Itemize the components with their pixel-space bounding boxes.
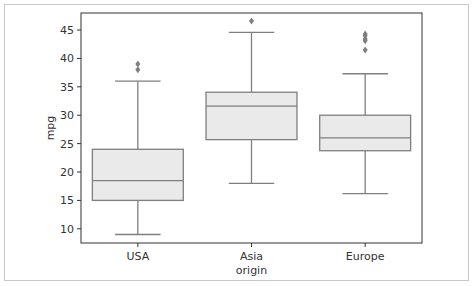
y-tick-label: 25 [60,138,74,151]
iqr-box [206,92,297,139]
box-usa [92,61,183,235]
y-tick-label: 20 [60,166,74,179]
outlier-point [249,17,254,24]
x-tick-label: Europe [346,250,385,263]
box-europe [320,31,411,194]
iqr-box [92,149,183,200]
x-axis-label: origin [236,264,267,277]
y-tick-label: 15 [60,194,74,207]
box-plot-chart: 1015202530354045 USAAsiaEurope origin mp… [0,0,473,286]
y-tick-label: 30 [60,109,74,122]
y-tick-label: 45 [60,24,74,37]
iqr-box [320,115,411,150]
y-tick-label: 35 [60,81,74,94]
boxes-layer [92,17,410,234]
outlier-point [363,46,368,53]
box-asia [206,17,297,183]
y-axis: 1015202530354045 [60,24,81,236]
outlier-point [135,61,140,68]
x-tick-label: USA [126,250,149,263]
y-axis-label: mpg [44,116,57,141]
y-tick-label: 40 [60,52,74,65]
x-tick-label: Asia [240,250,263,263]
y-tick-label: 10 [60,223,74,236]
x-axis: USAAsiaEurope [126,243,384,263]
